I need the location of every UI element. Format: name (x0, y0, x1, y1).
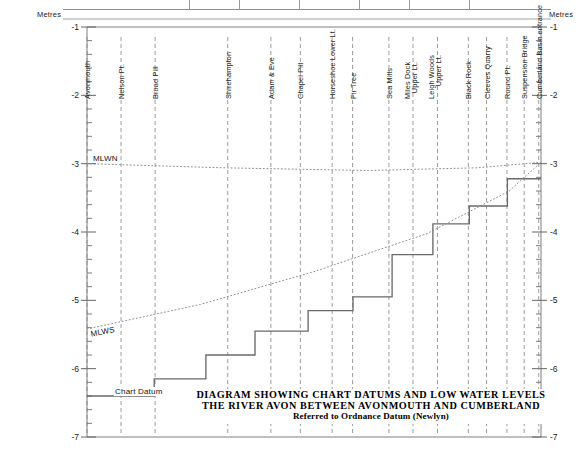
y-tick-label: -6 (57, 364, 79, 374)
series-chart-datum (87, 179, 541, 396)
station-label-13: Round Pt. (504, 65, 512, 99)
y-tick-label: -4 (550, 227, 572, 237)
station-label-10: Leigh WoodsUpper Lt. (428, 55, 443, 99)
y-tick-label: -5 (57, 295, 79, 305)
station-label-5: Chapel Pill (297, 62, 305, 99)
station-label-2: Broad Pill (152, 66, 160, 99)
y-tick-label: -7 (550, 432, 572, 442)
station-label-14: Suspension Bridge (521, 35, 529, 99)
station-label-11: Black Rock (465, 61, 473, 99)
station-label-8: Sea Mills (386, 68, 394, 99)
diagram-canvas: Metres Metres -1-2-3-4-5-6-7 -1-2-3-4-5-… (0, 0, 588, 454)
y-tick-label: -6 (550, 364, 572, 374)
y-tick-label: -2 (550, 90, 572, 100)
title-subtitle: Referred to Ordnance Datum (Newlyn) (196, 411, 546, 422)
station-label-3: Shirehampton (225, 52, 233, 99)
station-label-12: Cleeves Quarry (484, 46, 492, 99)
y-tick-label: -3 (57, 159, 79, 169)
y-tick-label: -1 (550, 22, 572, 32)
station-label-9: Miles DockUpper Lt. (404, 62, 419, 99)
y-tick-label: -5 (550, 295, 572, 305)
mlwn-label: MLWN (92, 154, 119, 163)
station-label-15: Cumberland Basin entrance (536, 5, 544, 99)
chart-datum-label: Chart Datum (114, 387, 164, 396)
station-label-4: Adam & Eve (268, 57, 276, 99)
y-tick-label: -3 (550, 159, 572, 169)
station-label-7: Fir Tree (350, 73, 358, 99)
y-tick-label: -2 (57, 90, 79, 100)
station-label-6: Horseshoe Lower Lt. (329, 29, 337, 99)
station-label-1: Nelson Pt. (118, 64, 126, 99)
y-tick-label: -1 (57, 22, 79, 32)
chart-frame (63, 19, 551, 437)
y-tick-label: -4 (57, 227, 79, 237)
y-tick-label: -7 (57, 432, 79, 442)
station-label-0: Avonmouth (84, 61, 92, 99)
